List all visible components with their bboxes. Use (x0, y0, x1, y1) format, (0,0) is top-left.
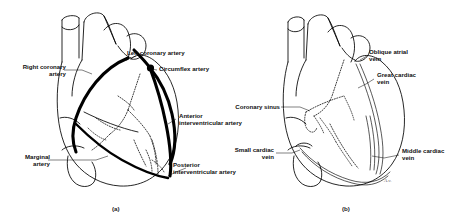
panel-caption-b: (b) (342, 205, 350, 212)
label-marginal-artery: Marginal artery (4, 153, 50, 168)
label-circumflex-artery: Circumflex artery (159, 65, 209, 72)
label-left-coronary-artery: Left coronary artery (127, 49, 185, 56)
panel-a-heart-drawing (48, 13, 186, 187)
label-coronary-sinus: Coronary sinus (222, 103, 280, 110)
great-vessels-outline-b (288, 15, 370, 62)
label-small-cardiac-vein: Small cardiac vein (222, 146, 274, 161)
middle-cardiac-vein-outline (366, 116, 375, 170)
dotted-artery-branches-a (88, 74, 164, 172)
label-middle-cardiac-vein: Middle cardiac vein (402, 147, 444, 162)
artist-signature: A.v. (384, 178, 391, 183)
label-great-cardiac-vein: Great cardiac vein (377, 71, 416, 86)
panel-caption-a: (a) (112, 205, 120, 212)
superior-vena-cava-outline (62, 16, 79, 62)
label-anterior-interventricular-artery: Anterior interventricular artery (179, 112, 242, 127)
oblique-atrial-vein-vessel (314, 60, 344, 116)
circumflex-origin-marker (147, 64, 154, 71)
coronary-sinus-vessel (305, 96, 344, 132)
aorta-outline (82, 13, 116, 60)
av-groove-line (84, 112, 138, 132)
middle-cardiac-vein-vessel (330, 124, 358, 168)
label-posterior-interventricular-artery: Posterior interventricular artery (173, 161, 236, 176)
posterior-interventricular-artery-vessel (152, 140, 158, 174)
right-coronary-artery-vessel (73, 58, 128, 152)
label-oblique-atrial-vein: Oblique atrial vein (369, 48, 408, 63)
heart-coronary-vessels-figure: .o { fill:none; stroke:#000; stroke-widt… (0, 0, 459, 223)
label-right-coronary-artery: Right coronary artery (4, 63, 66, 78)
panel-b-heart-drawing (276, 15, 405, 187)
